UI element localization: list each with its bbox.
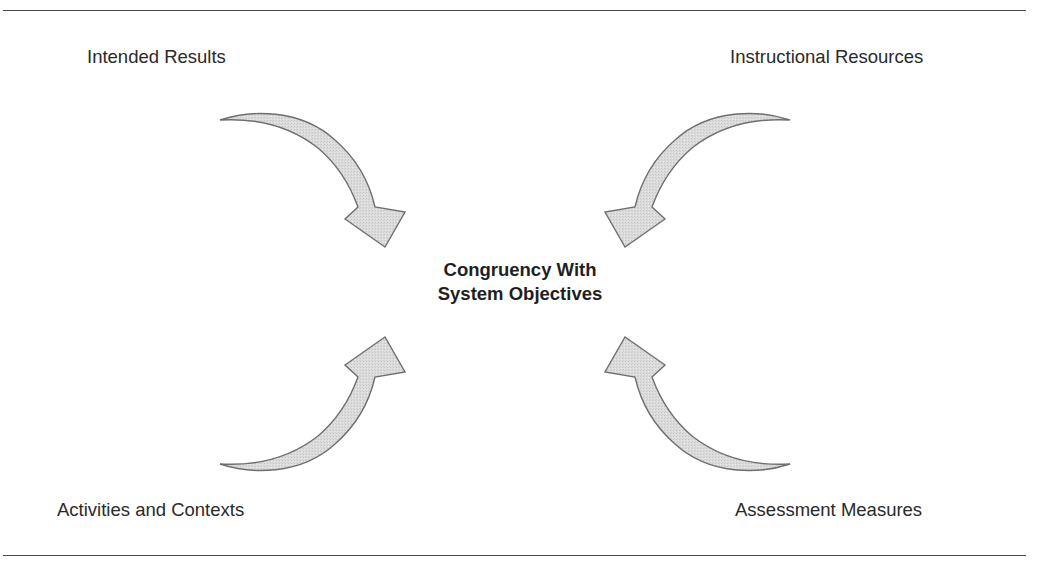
- arrow-bottom-left-icon: [220, 337, 405, 471]
- center-line-1: Congruency With: [400, 258, 640, 282]
- arrow-top-right-icon: [605, 113, 790, 247]
- center-line-2: System Objectives: [400, 282, 640, 306]
- center-concept: Congruency With System Objectives: [400, 258, 640, 306]
- bottom-rule: [3, 555, 1026, 556]
- arrow-top-left-icon: [220, 113, 405, 247]
- arrow-bottom-right-icon: [605, 337, 790, 471]
